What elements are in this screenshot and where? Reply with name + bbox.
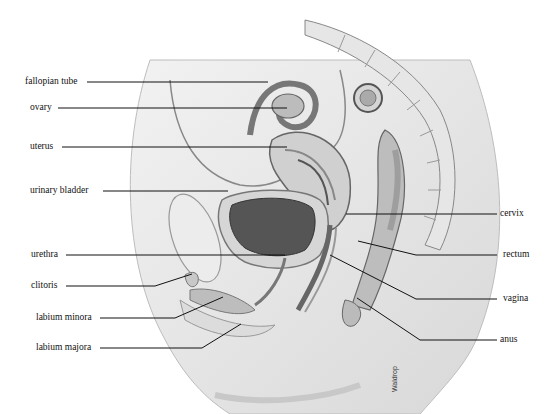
label-cervix: cervix: [500, 209, 524, 219]
label-vagina: vagina: [503, 294, 528, 304]
ovary-shape: [272, 94, 304, 118]
label-fallopian-tube: fallopian tube: [25, 77, 78, 87]
label-labium-majora: labium majora: [36, 343, 91, 353]
label-labium-minora: labium minora: [36, 313, 92, 323]
label-urinary-bladder: urinary bladder: [30, 186, 88, 196]
label-uterus: uterus: [30, 142, 53, 152]
anatomy-diagram: fallopian tube ovary uterus urinary blad…: [0, 0, 557, 414]
label-ovary: ovary: [30, 103, 52, 113]
label-rectum: rectum: [503, 250, 529, 260]
label-urethra: urethra: [31, 250, 58, 260]
label-clitoris: clitoris: [31, 281, 57, 291]
label-anus: anus: [500, 335, 517, 345]
artist-credit: Waldrop: [391, 366, 398, 392]
